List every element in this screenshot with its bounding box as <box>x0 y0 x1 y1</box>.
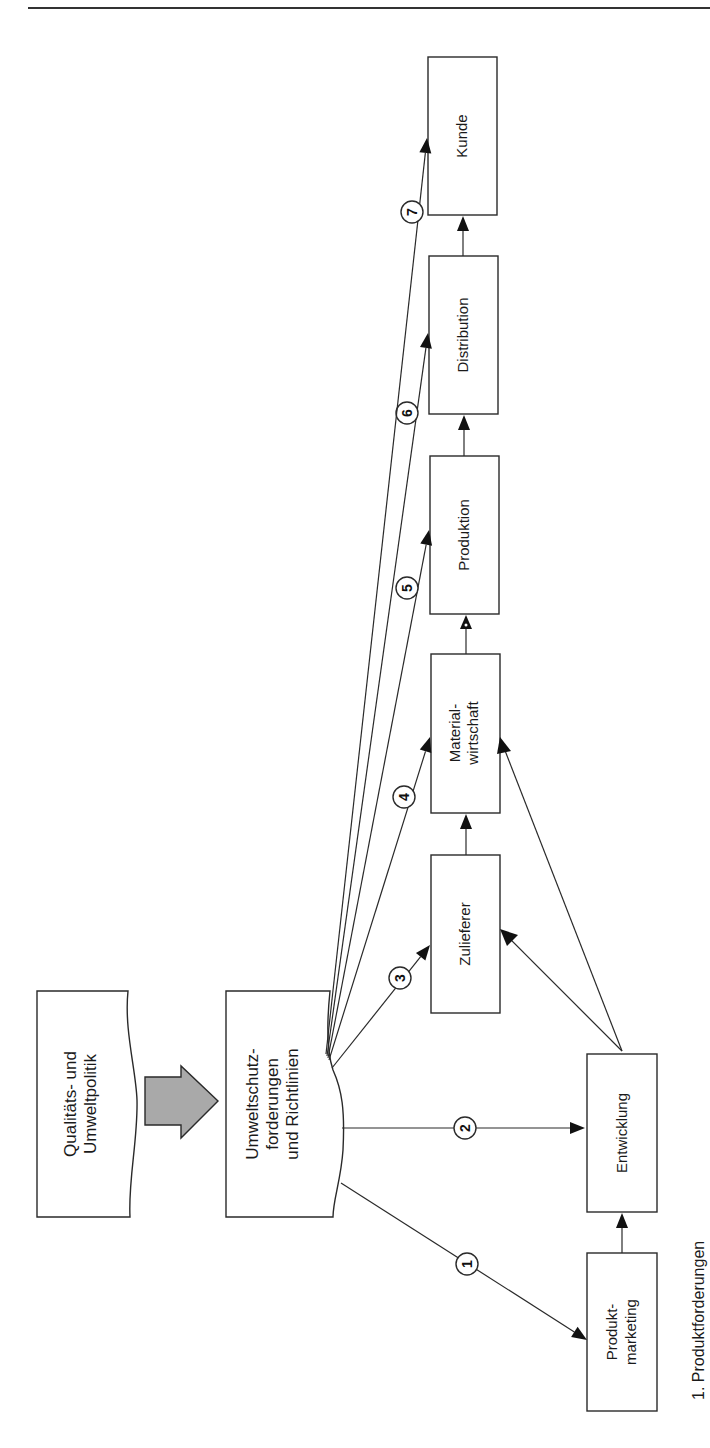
box-produktion-label: Produktion <box>455 499 472 571</box>
box-distribution: Distribution <box>429 256 498 414</box>
connector-produktion-to-distribution <box>458 415 470 456</box>
flow-arrowhead <box>571 1327 587 1340</box>
box-zulieferer-label: Zulieferer <box>456 902 473 965</box>
flow-number-label: 5 <box>399 584 415 592</box>
box-entwicklung: Entwicklung <box>587 1054 657 1212</box>
figure-caption: 1. Produktforderungen <box>690 1241 707 1400</box>
flow-arrowhead <box>416 945 430 960</box>
flow-number-label: 6 <box>399 409 415 417</box>
policy-label-line1: Qualitäts- und <box>61 1051 80 1157</box>
box-kunde-label: Kunde <box>453 114 470 157</box>
requirements-box: Umweltschutz- forderungen und Richtlinie… <box>226 991 344 1217</box>
box-kunde: Kunde <box>428 57 497 215</box>
flow-number-label: 3 <box>392 974 408 982</box>
requirements-label-line3: und Richtlinien <box>283 1048 302 1160</box>
box-distribution-label: Distribution <box>454 297 471 372</box>
flow-number-label: 1 <box>459 1260 475 1268</box>
flow-arrowhead <box>420 737 431 753</box>
flow-number-label: 2 <box>457 1124 473 1132</box>
connector-zulieferer-to-material <box>460 814 472 855</box>
policy-box: Qualitäts- und Umweltpolitik <box>37 991 137 1217</box>
flow-line <box>326 153 425 1054</box>
box-materialwirtschaft-label-line2: wirtschaft <box>464 701 481 766</box>
connector-distribution-to-kunde <box>457 216 469 256</box>
box-produktmarketing-label-line1: Produkt- <box>603 1304 620 1361</box>
policy-label-line2: Umweltpolitik <box>81 1053 100 1154</box>
box-produktmarketing: Produkt- marketing <box>587 1253 657 1411</box>
connector-marketing-to-entwicklung <box>616 1213 628 1253</box>
flow-number-label: 4 <box>396 793 412 801</box>
box-materialwirtschaft-label-line1: Material- <box>446 704 463 762</box>
requirement-flow-2: 2 <box>342 1117 585 1139</box>
box-produktmarketing-label-line2: marketing <box>622 1299 639 1365</box>
process-diagram: Qualitäts- und Umweltpolitik Umweltschut… <box>0 0 710 1448</box>
box-zulieferer: Zulieferer <box>431 855 500 1013</box>
requirement-flow-1: 1 <box>341 1183 587 1340</box>
flow-number-label: 7 <box>404 208 420 216</box>
policy-to-requirements-arrow <box>145 1066 218 1138</box>
box-entwicklung-label: Entwicklung <box>613 1093 630 1173</box>
box-produktion: Produktion <box>430 456 499 614</box>
connector-material-to-produktion <box>460 615 472 654</box>
connector-entwicklung-to-material <box>497 737 622 1051</box>
requirement-flow-3: 3 <box>332 945 430 1068</box>
box-materialwirtschaft: Material- wirtschaft <box>431 654 500 813</box>
connector-entwicklung-to-zulieferer <box>500 929 622 1051</box>
requirements-label-line1: Umweltschutz- <box>243 1048 262 1159</box>
flow-arrowhead <box>570 1122 585 1134</box>
requirement-flow-5: 5 <box>328 530 432 1058</box>
flow-line <box>327 348 426 1056</box>
requirements-label-line2: forderungen <box>263 1058 282 1150</box>
requirement-flow-6: 6 <box>327 333 432 1056</box>
